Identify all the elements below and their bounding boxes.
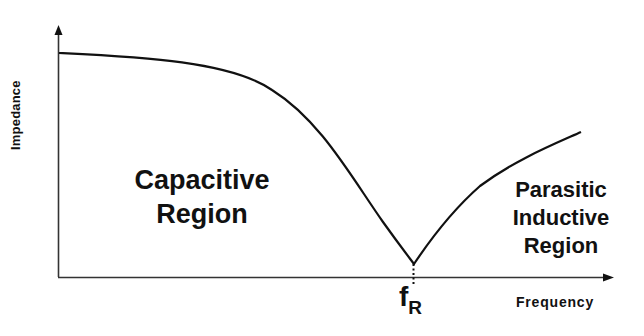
capacitive-region-label: Capacitive Region xyxy=(102,163,302,231)
inductive-line-2: Inductive xyxy=(494,204,628,232)
x-axis-arrow-icon xyxy=(603,274,614,282)
impedance-chart xyxy=(0,0,644,336)
y-axis-arrow-icon xyxy=(55,25,63,35)
y-axis-label: Impedance xyxy=(8,80,23,150)
inductive-line-1: Parasitic xyxy=(494,176,628,204)
inductive-region-label: Parasitic Inductive Region xyxy=(494,176,628,260)
x-axis-label: Frequency xyxy=(516,294,594,310)
inductive-line-3: Region xyxy=(494,232,628,260)
fr-subscript: R xyxy=(408,297,422,318)
resonant-frequency-label: fR xyxy=(399,283,422,322)
capacitive-line-2: Region xyxy=(102,197,302,231)
capacitive-line-1: Capacitive xyxy=(102,163,302,197)
fr-main: f xyxy=(399,281,408,312)
